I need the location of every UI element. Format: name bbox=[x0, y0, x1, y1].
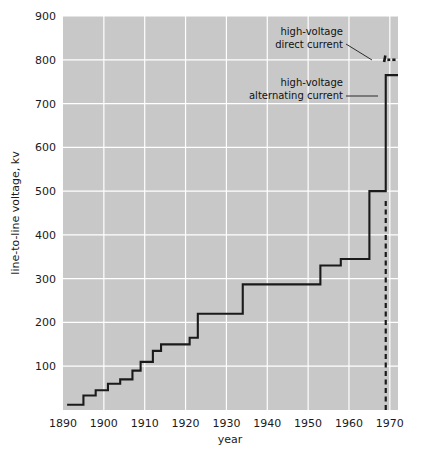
y-tick-label: 500 bbox=[35, 185, 56, 198]
x-tick-label: 1890 bbox=[49, 417, 77, 430]
y-tick-label: 600 bbox=[35, 141, 56, 154]
x-tick-label: 1960 bbox=[335, 417, 363, 430]
x-tick-label: 1900 bbox=[90, 417, 118, 430]
chart-figure: 1002003004005006007008009001890190019101… bbox=[0, 0, 421, 452]
y-tick-label: 300 bbox=[35, 273, 56, 286]
annotation-hvac-line2: alternating current bbox=[249, 90, 343, 101]
x-tick-label: 1910 bbox=[131, 417, 159, 430]
x-tick-label: 1930 bbox=[212, 417, 240, 430]
x-tick-label: 1920 bbox=[172, 417, 200, 430]
x-tick-label: 1950 bbox=[294, 417, 322, 430]
y-tick-label: 900 bbox=[35, 10, 56, 23]
y-tick-label: 700 bbox=[35, 98, 56, 111]
annotation-hvac-line1: high-voltage bbox=[280, 77, 343, 88]
x-axis-title: year bbox=[218, 433, 243, 446]
y-tick-label: 100 bbox=[35, 360, 56, 373]
x-tick-label: 1940 bbox=[253, 417, 281, 430]
y-tick-label: 200 bbox=[35, 316, 56, 329]
annotation-hvdc-line1: high-voltage bbox=[280, 26, 343, 37]
hvdc-dashed-segment bbox=[384, 55, 385, 62]
annotation-hvdc-line2: direct current bbox=[275, 39, 343, 50]
x-tick-label: 1970 bbox=[376, 417, 404, 430]
plot-area-background bbox=[63, 16, 398, 410]
voltage-growth-chart: 1002003004005006007008009001890190019101… bbox=[0, 0, 421, 452]
y-tick-label: 400 bbox=[35, 229, 56, 242]
y-tick-label: 800 bbox=[35, 54, 56, 67]
y-axis-title: line-to-line voltage, kv bbox=[9, 151, 22, 275]
